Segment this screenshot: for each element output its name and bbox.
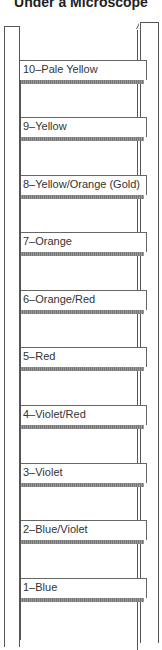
rung-label: 4–Violet/Red xyxy=(23,408,86,420)
right-rail-bevel xyxy=(135,21,139,29)
rung-10: 10–Pale Yellow xyxy=(20,60,147,80)
rung-label: 2–Blue/Violet xyxy=(23,523,88,535)
rung-9: 9–Yellow xyxy=(20,117,147,137)
rung-3: 3–Violet xyxy=(20,463,147,483)
rung-2: 2–Blue/Violet xyxy=(20,520,147,540)
rung-label: 8–Yellow/Orange (Gold) xyxy=(23,178,140,190)
rung-shadow xyxy=(20,483,144,487)
rung-label: 5–Red xyxy=(23,350,55,362)
right-rail xyxy=(140,22,159,643)
rung-label: 1–Blue xyxy=(23,581,57,593)
rung-label: 6–Orange/Red xyxy=(23,293,95,305)
rung-8: 8–Yellow/Orange (Gold) xyxy=(20,175,147,195)
rung-1: 1–Blue xyxy=(20,578,147,598)
rung-6: 6–Orange/Red xyxy=(20,290,147,310)
rung-shadow xyxy=(20,540,144,544)
rung-label: 3–Violet xyxy=(23,466,63,478)
rung-shadow xyxy=(20,80,144,84)
rung-shadow xyxy=(20,425,144,429)
rung-shadow xyxy=(20,367,144,371)
rung-shadow xyxy=(20,598,144,602)
rung-label: 7–Orange xyxy=(23,235,72,247)
rung-label: 9–Yellow xyxy=(23,120,67,132)
left-rail xyxy=(4,26,20,647)
rung-4: 4–Violet/Red xyxy=(20,405,147,425)
rung-5: 5–Red xyxy=(20,347,147,367)
rung-shadow xyxy=(20,195,144,199)
rung-shadow xyxy=(20,252,144,256)
rung-label: 10–Pale Yellow xyxy=(23,63,98,75)
rung-shadow xyxy=(20,137,144,141)
left-rail-inner-edge xyxy=(20,80,21,640)
rung-7: 7–Orange xyxy=(20,232,147,252)
rung-shadow xyxy=(20,310,144,314)
